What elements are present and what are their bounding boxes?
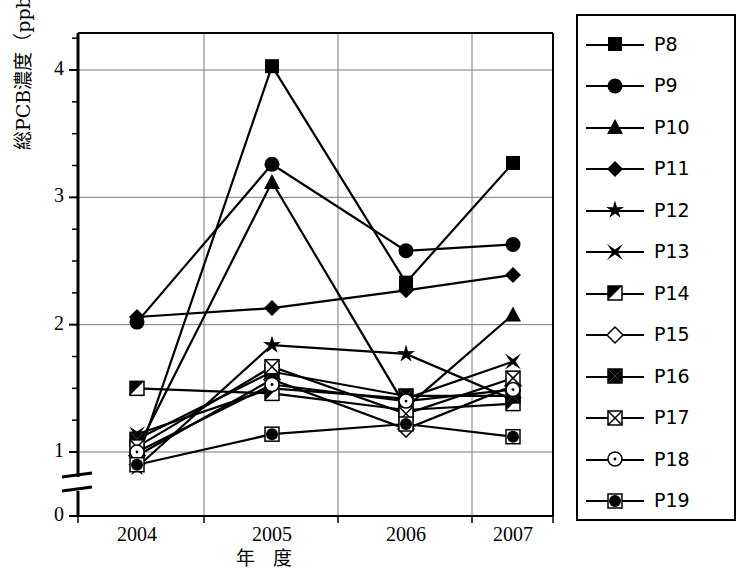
data-point-filled-diamond — [264, 300, 280, 316]
legend-marker-filled-square-icon — [578, 24, 652, 64]
data-point-open-square-x — [608, 411, 622, 425]
data-point-circle-dot — [130, 445, 144, 459]
data-point-circle-dot — [265, 378, 279, 392]
legend-item-p18[interactable]: P18 — [578, 439, 738, 479]
legend-marker-filled-diamond-icon — [578, 149, 652, 189]
data-point-filled-triangle — [264, 174, 280, 189]
axis-frame — [78, 33, 553, 516]
data-point-half-filled-square — [130, 381, 144, 395]
chart-legend: P8P9P10P11P12P13P14P15P16P17P18P19 — [576, 14, 736, 521]
data-point-filled-square — [608, 37, 622, 51]
data-point-circle-in-square — [399, 417, 413, 431]
axis-break-marks — [62, 473, 92, 491]
legend-label: P10 — [652, 118, 690, 137]
data-point-filled-diamond — [607, 161, 623, 177]
legend-marker-filled-cross-x-icon — [578, 232, 652, 272]
legend-label: P16 — [652, 367, 690, 386]
data-point-circle-in-square — [506, 430, 520, 444]
legend-item-p19[interactable]: P19 — [578, 481, 738, 521]
data-point-circle-dot — [608, 452, 622, 466]
data-point-filled-circle — [608, 78, 623, 93]
data-point-filled-cross-x — [505, 354, 521, 370]
data-point-circle-dot — [506, 383, 520, 397]
legend-marker-open-square-x-icon — [578, 398, 652, 438]
data-point-filled-triangle — [505, 306, 521, 321]
data-point-filled-circle — [399, 243, 414, 258]
data-point-filled-star — [606, 201, 624, 218]
legend-item-p14[interactable]: P14 — [578, 273, 738, 313]
legend-marker-circle-dot-icon — [578, 439, 652, 479]
data-point-filled-diamond — [505, 267, 521, 283]
legend-item-p15[interactable]: P15 — [578, 315, 738, 355]
legend-label: P19 — [652, 491, 690, 510]
series-layer — [128, 59, 522, 475]
legend-label: P12 — [652, 201, 690, 220]
legend-label: P18 — [652, 450, 690, 469]
data-point-filled-cross-x — [607, 244, 623, 260]
series-P11 — [129, 267, 521, 325]
legend-label: P13 — [652, 242, 690, 261]
legend-marker-filled-circle-icon — [578, 66, 652, 106]
data-point-circle-in-square — [608, 494, 622, 508]
data-point-circle-dot — [399, 394, 413, 408]
legend-item-p11[interactable]: P11 — [578, 149, 738, 189]
data-point-filled-square — [506, 156, 520, 170]
legend-item-p9[interactable]: P9 — [578, 66, 738, 106]
legend-marker-half-filled-square-icon — [578, 273, 652, 313]
data-point-open-diamond — [607, 327, 623, 343]
data-point-filled-circle — [506, 237, 521, 252]
series-P9 — [130, 157, 521, 330]
legend-label: P8 — [652, 35, 678, 54]
gridlines — [78, 33, 553, 516]
legend-item-p10[interactable]: P10 — [578, 107, 738, 147]
data-point-filled-square — [265, 59, 279, 73]
legend-marker-circle-in-square-icon — [578, 481, 652, 521]
data-point-open-square-x — [265, 360, 279, 374]
data-point-circle-in-square — [265, 427, 279, 441]
legend-item-p16[interactable]: P16 — [578, 356, 738, 396]
data-point-filled-circle — [265, 157, 280, 172]
legend-label: P9 — [652, 76, 678, 95]
legend-item-p13[interactable]: P13 — [578, 232, 738, 272]
legend-label: P15 — [652, 325, 690, 344]
legend-item-p12[interactable]: P12 — [578, 190, 738, 230]
chart-figure: 総PCB濃度（ppb） 年 度 01234 2004200520062007 P… — [0, 0, 749, 580]
data-point-filled-triangle — [607, 119, 623, 134]
data-point-square-filled-bowtie — [608, 369, 622, 383]
legend-item-p17[interactable]: P17 — [578, 398, 738, 438]
data-point-half-filled-square — [608, 286, 622, 300]
data-point-circle-in-square — [130, 458, 144, 472]
legend-marker-square-filled-bowtie-icon — [578, 356, 652, 396]
legend-label: P17 — [652, 408, 690, 427]
legend-label: P14 — [652, 284, 690, 303]
legend-marker-open-diamond-icon — [578, 315, 652, 355]
legend-marker-filled-triangle-icon — [578, 107, 652, 147]
legend-item-p8[interactable]: P8 — [578, 24, 738, 64]
legend-label: P11 — [652, 159, 690, 178]
legend-marker-filled-star-icon — [578, 190, 652, 230]
series-P13 — [129, 354, 521, 443]
